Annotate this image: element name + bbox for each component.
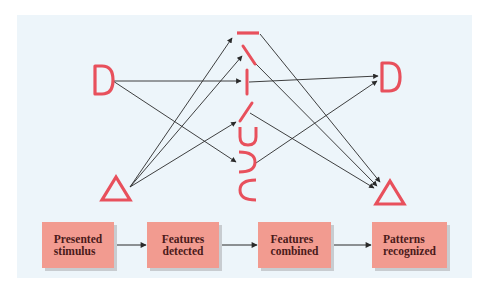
feature-reverse-c-curve-icon xyxy=(239,152,255,172)
stage-box-features-combined: Features combined xyxy=(258,222,331,268)
connection-arrow xyxy=(250,113,374,188)
stage-label: Features detected xyxy=(162,233,205,257)
stimulus-letter-D-icon xyxy=(95,66,113,94)
feature-c-curve-icon xyxy=(240,180,256,200)
pattern-triangle-icon xyxy=(376,181,404,204)
connection-arrow xyxy=(260,34,380,182)
feature-u-curve-icon xyxy=(240,127,256,145)
stimulus-triangle-icon xyxy=(102,177,130,200)
stage-label: Features combined xyxy=(271,233,319,257)
pattern-letter-D-icon xyxy=(382,63,400,91)
feature-diagonal-line-left-down-icon xyxy=(240,103,252,121)
feature-diagonal-line-right-down-icon xyxy=(243,46,255,64)
connection-arrow xyxy=(256,81,377,163)
stage-box-patterns-recognized: Patterns recognized xyxy=(372,222,447,268)
stage-label: Presented stimulus xyxy=(54,233,102,257)
connection-arrow xyxy=(130,56,242,187)
stage-box-presented-stimulus: Presented stimulus xyxy=(42,222,114,268)
connection-arrow xyxy=(130,122,236,187)
stage-label: Patterns recognized xyxy=(383,233,436,257)
connection-arrow xyxy=(130,38,232,187)
stage-box-features-detected: Features detected xyxy=(147,222,219,268)
